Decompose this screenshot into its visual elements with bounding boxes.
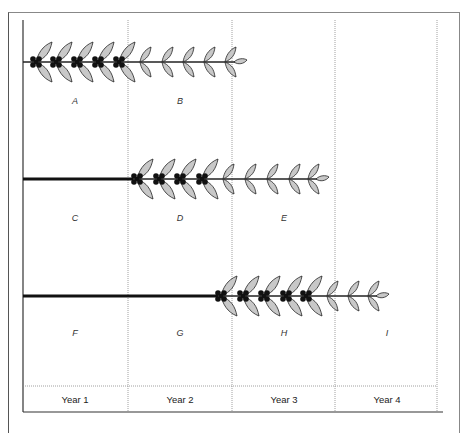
shoot-row-2 [23,159,329,199]
segment-label-g: G [176,328,183,338]
segment-label-h: H [281,328,288,338]
segment-label-e: E [281,213,287,223]
segment-label-d: D [177,213,184,223]
shoot-row-1 [23,42,247,82]
segment-label-i: I [386,328,389,338]
segment-label-c: C [72,213,79,223]
segment-label-f: F [72,328,78,338]
segment-label-b: B [177,96,183,106]
segment-label-a: A [72,96,78,106]
year-label-2: Year 2 [166,394,193,405]
year-label-4: Year 4 [373,394,400,405]
shoot-row-3 [23,276,389,316]
year-label-3: Year 3 [270,394,297,405]
year-label-1: Year 1 [61,394,88,405]
grid [23,20,443,412]
